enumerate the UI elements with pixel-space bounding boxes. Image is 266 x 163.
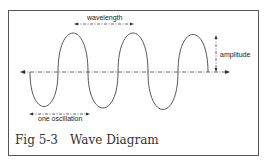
- amplitude-arrow: [215, 35, 218, 72]
- wavelength-arrow: [74, 23, 134, 26]
- figure-number: Fig 5-3: [15, 133, 58, 147]
- oscillation-label: one oscillation: [38, 115, 82, 122]
- figure-title: Wave Diagram: [70, 133, 159, 147]
- amplitude-label: amplitude: [220, 51, 250, 58]
- horizontal-axis: [20, 70, 230, 74]
- wavelength-label: wavelength: [87, 14, 122, 21]
- sine-wave: [30, 33, 208, 110]
- figure-caption: Fig 5-3Wave Diagram: [15, 133, 159, 147]
